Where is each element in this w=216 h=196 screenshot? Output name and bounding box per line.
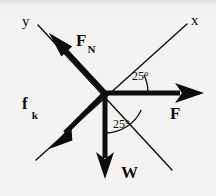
x-axis-label: x [191,13,199,28]
angle-label-upper: 25° [132,70,149,82]
kinetic-friction-label-subscript: k [32,109,38,121]
weight-force-vector [96,93,114,179]
kinetic-friction-label: fk [22,95,34,115]
normal-force-label: FN [76,32,94,52]
applied-force-label: F [170,105,180,122]
free-body-diagram: y x FN fk F W 25° 25° [0,0,216,196]
angle-label-lower: 25° [113,118,130,130]
weight-force-label: W [121,164,138,181]
applied-force-vector [105,83,204,103]
normal-force-shaft [65,50,106,94]
kinetic-friction-vector [49,93,105,149]
normal-force-label-base: F [76,31,86,50]
normal-force-label-subscript: N [87,43,95,55]
kinetic-friction-arrowhead [49,126,72,149]
y-axis-label: y [22,14,30,29]
kinetic-friction-label-base: f [22,94,28,113]
